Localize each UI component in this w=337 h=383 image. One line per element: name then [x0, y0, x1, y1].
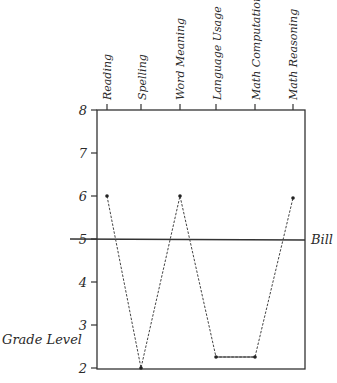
- y-axis-title: Grade Level: [2, 332, 82, 347]
- reference-line-bill: [70, 239, 305, 240]
- point-language-usage: [214, 355, 218, 359]
- y-tick-7: 7: [79, 146, 88, 161]
- category-math-computation: Math Computation: [250, 0, 263, 101]
- y-tick-2: 2: [78, 361, 87, 376]
- point-spelling: [139, 366, 143, 370]
- data-points: [105, 194, 295, 370]
- y-tick-6: 6: [79, 189, 87, 204]
- grade-level-chart: 8 7 6 5 4 3 2 Reading Spelling Word Mean…: [0, 0, 337, 383]
- y-tick-3: 3: [79, 318, 87, 333]
- point-math-computation: [253, 355, 257, 359]
- category-word-meaning: Word Meaning: [174, 18, 187, 100]
- x-axis-ticks: [107, 104, 293, 110]
- y-tick-8: 8: [79, 103, 87, 118]
- reference-label-bill: Bill: [310, 232, 333, 247]
- point-word-meaning: [178, 194, 182, 198]
- y-tick-4: 4: [78, 275, 87, 290]
- point-reading: [105, 194, 109, 198]
- category-reading: Reading: [101, 54, 114, 101]
- category-language-usage: Language Usage: [211, 6, 224, 101]
- category-math-reasoning: Math Reasoning: [287, 9, 300, 101]
- category-labels: Reading Spelling Word Meaning Language U…: [101, 0, 300, 101]
- category-spelling: Spelling: [136, 54, 149, 100]
- score-line: [107, 196, 293, 368]
- point-math-reasoning: [291, 196, 295, 200]
